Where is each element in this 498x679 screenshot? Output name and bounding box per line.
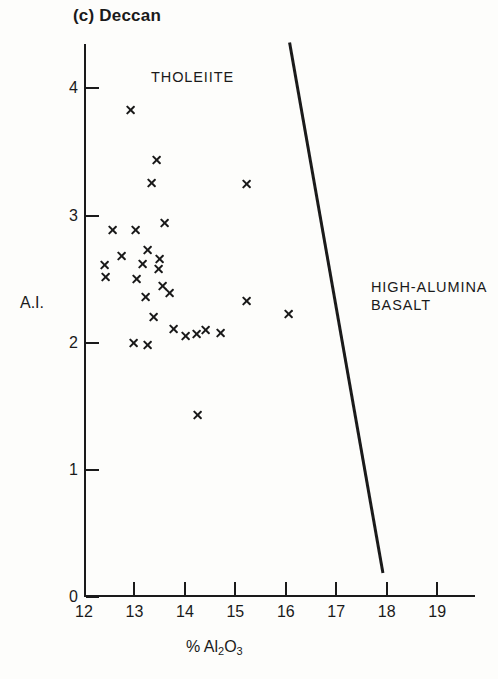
deccan-scatter-figure: (c) Deccan 01234 1213141516171819 A.I. %…: [0, 0, 498, 679]
boundary-line-layer: [0, 0, 498, 679]
tholeiite-high-alumina-boundary-line: [290, 44, 383, 572]
